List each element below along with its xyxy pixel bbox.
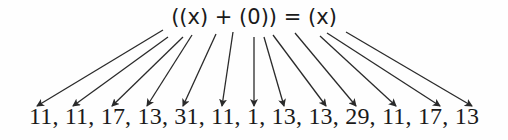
arrow-11	[320, 36, 396, 106]
encoding-diagram: ((x) + (0)) = (x) 11, 11, 17, 13, 31, 11…	[0, 0, 508, 140]
sequence-text: 11, 11, 17, 13, 31, 11, 1, 13, 13, 29, 1…	[29, 103, 479, 129]
arrow-group	[37, 30, 472, 106]
arrow-3	[112, 37, 183, 106]
arrow-6	[222, 32, 233, 106]
arrow-10	[295, 33, 356, 106]
arrow-1	[37, 30, 163, 106]
arrow-13	[346, 32, 472, 106]
arrow-5	[183, 34, 216, 106]
arrow-4	[147, 35, 192, 106]
number-sequence: 11, 11, 17, 13, 31, 11, 1, 13, 13, 29, 1…	[0, 103, 508, 130]
arrow-8	[264, 37, 284, 106]
